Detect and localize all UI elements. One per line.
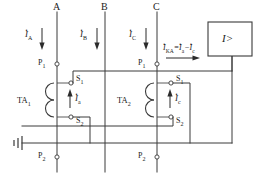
current-ia-sub: A: [28, 35, 32, 41]
relay-current-term2-symbol: I: [190, 44, 193, 52]
ta1-s1-label: S1: [76, 75, 83, 85]
ta1-label: TA1: [17, 96, 31, 107]
ta2-s1-sub: 1: [180, 79, 183, 85]
ta2-coil: [146, 83, 155, 117]
ta1-terminal-p2[interactable]: [55, 155, 59, 159]
ta2-s1-label: S1: [176, 75, 183, 85]
ta1-s2-sub: 2: [80, 121, 83, 127]
ta1-s1-to-relay-wire: [73, 71, 232, 83]
ta1-p1-sub: 1: [42, 63, 45, 69]
ta2-p1-sub: 1: [142, 63, 145, 69]
ta1-p1-label: P1: [38, 59, 45, 69]
ta1-terminal-s2[interactable]: [69, 115, 73, 119]
ta2-label-index: 2: [128, 101, 131, 107]
ta2-s2-sub: 2: [180, 121, 183, 127]
current-arrow-ib: [94, 28, 99, 50]
current-ia-symbol: I: [25, 30, 28, 39]
ta1-s1-sub: 1: [80, 79, 83, 85]
relay-symbol-operator: >: [226, 32, 233, 44]
ta1-p2-sub: 2: [42, 156, 45, 162]
ta1-secondary-current-symbol: I: [75, 94, 78, 103]
relay-symbol-label: I>: [222, 33, 233, 44]
ta1-secondary-current-label: Ia: [75, 94, 81, 105]
current-arrow-ia: [39, 28, 44, 50]
relay-current-equation-label: IKA=Ia−Ic: [163, 44, 195, 54]
current-arrow-ic-secondary: [167, 89, 172, 108]
earth-ground-icon: [14, 136, 22, 150]
ta2-secondary-current-symbol: I: [175, 94, 178, 103]
ta2-s2-label: S2: [176, 117, 183, 127]
ta2-label-text: TA: [117, 95, 128, 105]
ta1-p2-label: P2: [38, 152, 45, 162]
phase-c-label: C: [153, 2, 160, 12]
ta2-p2-sub: 2: [142, 156, 145, 162]
current-ic-label: IC: [129, 30, 136, 41]
ta2-p1-label: P1: [138, 59, 145, 69]
phase-a-label: A: [53, 2, 60, 12]
phase-b-label: B: [101, 2, 108, 12]
ta1-terminal-p1[interactable]: [55, 62, 59, 66]
relay-current-arrow: [166, 55, 200, 60]
current-arrow-ia-secondary: [67, 89, 72, 108]
ta2-terminal-p2[interactable]: [155, 155, 159, 159]
ta2-secondary-current-label: Ic: [175, 94, 181, 105]
ta2-terminal-p1[interactable]: [155, 62, 159, 66]
ta2-s2-to-rail-wire: [22, 117, 173, 126]
current-ia-label: IA: [25, 30, 32, 41]
ta1-s2-label: S2: [76, 117, 83, 127]
relay-current-sub: KA: [166, 48, 174, 54]
circuit-diagram: A B C IA IB IC P1 P1 P2 P2 S1 S2 S1 S2 T…: [0, 0, 259, 176]
ta2-terminal-s2[interactable]: [169, 115, 173, 119]
ta2-terminal-s1[interactable]: [169, 81, 173, 85]
current-ib-label: IB: [80, 30, 87, 41]
current-ib-symbol: I: [80, 30, 83, 39]
relay-current-term1-symbol: I: [179, 44, 182, 52]
current-ic-sub: C: [132, 35, 136, 41]
ta2-p2-label: P2: [138, 152, 145, 162]
relay-current-symbol: I: [163, 44, 166, 52]
current-arrow-ic: [143, 28, 148, 50]
ta1-terminal-s1[interactable]: [69, 81, 73, 85]
ta1-label-index: 1: [28, 101, 31, 107]
ta1-coil: [46, 83, 55, 117]
ta1-label-text: TA: [17, 95, 28, 105]
current-ic-symbol: I: [129, 30, 132, 39]
ta2-label: TA2: [117, 96, 131, 107]
current-ib-sub: B: [83, 35, 87, 41]
